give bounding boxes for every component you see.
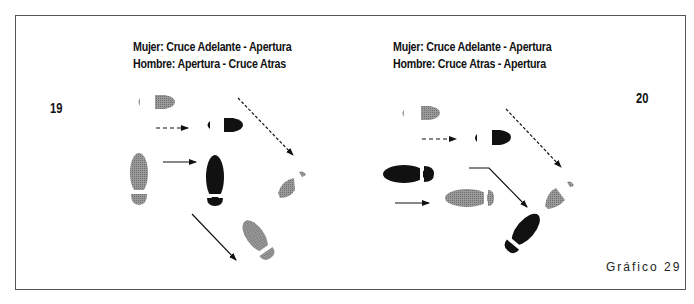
- woman-foot-icon: [237, 216, 278, 263]
- man-foot-icon: [208, 118, 244, 132]
- woman-foot-icon: [545, 182, 574, 210]
- diagram-19-feet: [130, 95, 306, 263]
- footprint-diagram: [0, 0, 694, 304]
- man-foot-icon: [501, 209, 545, 257]
- arrow-icon: [192, 214, 236, 260]
- man-foot-icon: [475, 130, 511, 145]
- diagram-20-feet: [383, 106, 574, 257]
- woman-foot-icon: [130, 153, 148, 205]
- woman-foot-icon: [445, 189, 494, 207]
- man-foot-icon: [206, 155, 224, 206]
- woman-foot-icon: [139, 95, 176, 109]
- arrow-icon: [506, 109, 561, 167]
- arrow-icon: [238, 98, 293, 155]
- woman-foot-icon: [403, 106, 441, 120]
- woman-foot-icon: [278, 171, 306, 198]
- man-foot-icon: [383, 165, 434, 183]
